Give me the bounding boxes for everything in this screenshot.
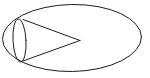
figure-canvas [0,0,150,78]
cone-in-ellipse-diagram [0,0,150,78]
